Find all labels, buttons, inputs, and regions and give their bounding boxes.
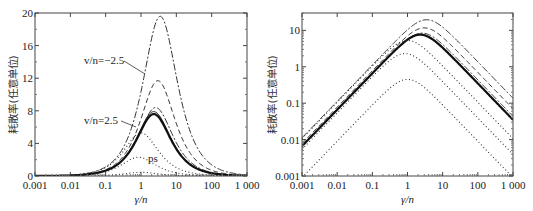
data-curve <box>302 33 513 146</box>
data-curve <box>35 16 247 176</box>
data-curve <box>302 54 513 155</box>
y-tick-label: 12 <box>22 72 33 84</box>
data-curve <box>302 34 513 145</box>
data-curve <box>302 35 513 146</box>
right-chart: 0.0010.010.11101001 0000.0010.010.1110γ/… <box>266 13 526 205</box>
y-tick-label: 0 <box>28 170 34 182</box>
y-axis-label: 耗散率(任意单位) <box>266 55 278 133</box>
y-tick-label: 0.1 <box>286 97 300 109</box>
y-tick-label: 8 <box>28 105 34 117</box>
data-curve <box>35 133 247 176</box>
x-tick-label: 0.01 <box>328 179 347 191</box>
y-tick-label: 10 <box>289 24 301 36</box>
plot-frame <box>35 13 247 176</box>
y-axis-label: 耗散率(任意单位) <box>7 55 19 133</box>
x-tick-label: 100 <box>203 179 220 191</box>
data-curve <box>302 79 513 177</box>
x-tick-label: 10 <box>171 179 183 191</box>
data-curve <box>302 20 513 138</box>
data-curve <box>302 40 513 138</box>
x-axis-label: γ/n <box>401 193 414 205</box>
curves <box>35 16 247 176</box>
left-chart: 0.0010.010.11101001 000048121620γ/n耗散率(任… <box>7 7 260 205</box>
x-tick-label: 1 <box>405 179 411 191</box>
y-tick-label: 16 <box>22 40 34 52</box>
annotation-vn-neg: v/n=−2.5 <box>84 54 125 66</box>
x-tick-label: 0.01 <box>61 179 80 191</box>
x-tick-label: 1 000 <box>235 179 260 191</box>
chart-canvas: 0.0010.010.11101001 000048121620γ/n耗散率(任… <box>0 0 533 211</box>
x-tick-label: 1 000 <box>501 179 526 191</box>
y-tick-label: 0.001 <box>275 170 300 182</box>
annotation-vn-pos: v/n=2.5 <box>84 114 119 126</box>
y-tick-label: 0.01 <box>281 134 300 146</box>
x-tick-label: 10 <box>437 179 449 191</box>
y-tick-label: 20 <box>22 7 34 19</box>
plot-frame <box>302 13 513 176</box>
x-tick-label: 0.1 <box>99 179 113 191</box>
y-tick-label: 4 <box>28 137 34 149</box>
annotation-ps: ps <box>148 152 158 164</box>
curves <box>302 20 513 178</box>
data-curve <box>35 112 247 176</box>
y-tick-label: 1 <box>295 61 301 73</box>
x-tick-label: 0.1 <box>365 179 379 191</box>
x-axis-label: γ/n <box>135 193 148 205</box>
x-tick-label: 100 <box>470 179 487 191</box>
x-tick-label: 1 <box>138 179 144 191</box>
x-tick-label: 0.001 <box>23 179 48 191</box>
